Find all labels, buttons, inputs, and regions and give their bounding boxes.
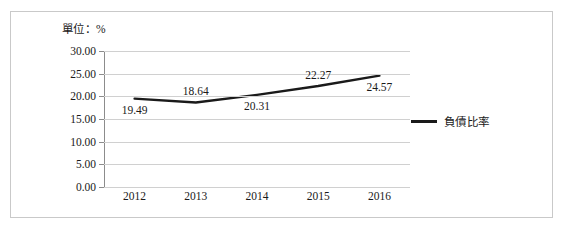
gridline (104, 119, 410, 120)
unit-label: 單位：% (62, 20, 106, 36)
y-axis-tick (99, 74, 104, 75)
y-axis-tick-label: 0.00 (76, 181, 96, 193)
data-point-label: 20.31 (244, 100, 270, 112)
plot-area (104, 51, 410, 187)
gridline (104, 164, 410, 165)
y-axis-tick-label: 30.00 (70, 45, 96, 57)
x-axis-tick-label: 2015 (307, 190, 330, 202)
y-axis-tick-label: 5.00 (76, 158, 96, 170)
y-axis-tick (99, 187, 104, 188)
y-axis-tick-label: 10.00 (70, 136, 96, 148)
gridline (104, 142, 410, 143)
y-axis-tick-label: 20.00 (70, 90, 96, 102)
data-point-label: 19.49 (122, 104, 148, 116)
y-axis-tick (99, 119, 104, 120)
data-point-label: 18.64 (183, 85, 209, 97)
chart-figure: 單位：% 30.0025.0020.0015.0010.005.000.00 負… (0, 0, 568, 231)
gridline (104, 187, 410, 188)
y-axis-tick (99, 51, 104, 52)
y-axis-tick-label: 25.00 (70, 68, 96, 80)
data-point-label: 22.27 (305, 69, 331, 81)
series-polyline (135, 76, 380, 103)
x-axis-tick-label: 2013 (184, 190, 207, 202)
gridline (104, 74, 410, 75)
legend: 負債比率 (411, 113, 489, 129)
gridline (104, 51, 410, 52)
y-axis-tick (99, 142, 104, 143)
y-axis-tick (99, 164, 104, 165)
gridline (104, 96, 410, 97)
x-axis-tick-label: 2014 (246, 190, 269, 202)
y-axis-tick-labels: 30.0025.0020.0015.0010.005.000.00 (40, 51, 96, 188)
legend-label: 負債比率 (444, 113, 489, 129)
y-axis-tick-label: 15.00 (70, 113, 96, 125)
x-axis-tick-label: 2016 (368, 190, 391, 202)
x-axis-tick-label: 2012 (123, 190, 146, 202)
data-point-label: 24.57 (366, 81, 392, 93)
y-axis-tick (99, 96, 104, 97)
legend-line-swatch (411, 120, 437, 123)
